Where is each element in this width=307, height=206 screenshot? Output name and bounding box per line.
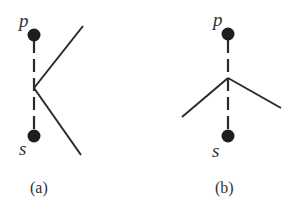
right-branch-b xyxy=(228,78,281,108)
node-p-a xyxy=(28,29,41,42)
lower-branch-a xyxy=(34,88,81,155)
left-branch-b xyxy=(182,78,228,117)
label-p-b: p xyxy=(211,9,223,30)
panel-a: p s (a) xyxy=(17,10,83,197)
node-s-a xyxy=(28,130,41,143)
caption-a: (a) xyxy=(30,179,48,197)
label-s-a: s xyxy=(19,138,26,159)
label-p-a: p xyxy=(17,10,29,31)
caption-b: (b) xyxy=(215,179,234,197)
label-s-b: s xyxy=(212,140,219,161)
upper-branch-a xyxy=(34,26,83,88)
diagram-canvas: p s (a) p s (b) xyxy=(0,0,307,206)
panel-b: p s (b) xyxy=(182,9,281,197)
node-s-b xyxy=(222,130,235,143)
node-p-b xyxy=(222,28,235,41)
